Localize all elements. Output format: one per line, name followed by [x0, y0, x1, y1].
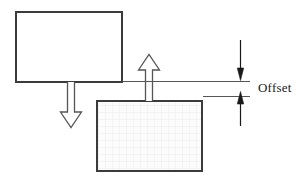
up-arrow [139, 55, 160, 102]
lower-block [97, 101, 202, 171]
down-arrow [61, 82, 82, 128]
dimension-arrow-down-head [237, 68, 243, 81]
offset-label: Offset [258, 80, 291, 96]
offset-diagram: Offset [0, 0, 308, 182]
upper-block [16, 12, 122, 82]
